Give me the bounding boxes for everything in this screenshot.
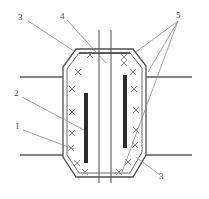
hatch-mark: [75, 69, 81, 75]
leader-5-a: [136, 21, 178, 52]
leader-5-c: [122, 21, 178, 172]
leader-4: [67, 20, 106, 63]
hatch-mark: [69, 109, 75, 115]
inner-body-outline: [67, 53, 142, 173]
leader-2: [22, 97, 84, 130]
leader-1: [23, 130, 74, 149]
hatch-mark: [74, 160, 80, 166]
hatch-mark: [130, 69, 136, 75]
hatch-mark: [121, 60, 127, 66]
leader-5-b: [148, 21, 178, 72]
callout-label-3-bottom: 3: [159, 172, 164, 181]
hatch-mark: [69, 86, 75, 92]
insert-bar-right: [123, 75, 127, 148]
hatch-mark: [69, 130, 75, 136]
hatch-group-left: [68, 52, 93, 175]
callout-label-2: 2: [14, 89, 19, 98]
hatch-mark: [116, 169, 122, 175]
callout-label-5: 5: [176, 11, 181, 20]
diagram-canvas: [0, 0, 209, 199]
leader-3-top: [28, 21, 74, 51]
hatch-mark: [131, 86, 137, 92]
callout-label-3-top: 3: [18, 13, 23, 22]
callout-label-4: 4: [60, 12, 65, 21]
hatch-mark: [133, 107, 139, 113]
hatch-mark: [121, 54, 127, 60]
technical-diagram-figure: 3 4 5 2 1 3: [0, 0, 209, 199]
leader-lines: [22, 20, 178, 175]
callout-label-1: 1: [15, 122, 20, 131]
insert-bar-left: [84, 93, 88, 163]
hatch-mark: [82, 169, 88, 175]
